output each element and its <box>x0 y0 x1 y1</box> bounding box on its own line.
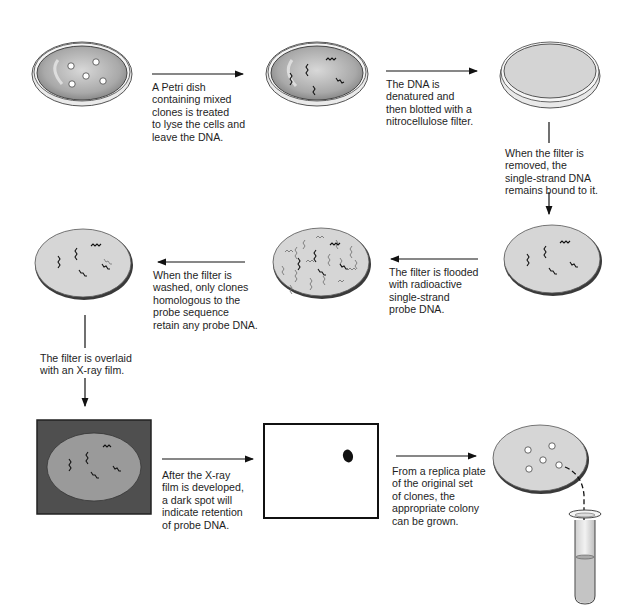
caption-step6: The filter is overlaid with an X-ray fil… <box>40 352 132 377</box>
petri-dish-lysed-dna <box>266 42 368 106</box>
caption-step5: When the filter is washed, only clones h… <box>153 269 258 331</box>
nitrocellulose-filter-on-dish <box>500 42 600 108</box>
colony-selected <box>556 462 562 468</box>
caption-step4: The filter is flooded with radioactive s… <box>389 266 479 316</box>
filter-washed <box>35 229 133 300</box>
colony <box>93 59 99 65</box>
developed-xray-film <box>264 424 378 518</box>
caption-step8: From a replica plate of the original set… <box>392 465 486 527</box>
colony <box>69 81 75 87</box>
colony <box>68 63 74 69</box>
colony <box>540 457 546 463</box>
caption-step3: When the filter is removed, the single-s… <box>505 147 598 197</box>
colony <box>83 73 89 79</box>
colony <box>525 447 531 453</box>
filter-bound-dna <box>504 225 602 296</box>
colony <box>100 78 106 84</box>
colony <box>526 466 532 472</box>
diagram-canvas <box>0 0 637 615</box>
caption-step7: After the X-ray film is developed, a dar… <box>162 469 244 531</box>
replica-plate <box>493 425 589 494</box>
filter-flooded-probe <box>273 228 371 299</box>
petri-dish-colonies <box>32 42 132 106</box>
culture-tube <box>569 510 601 604</box>
caption-step2: The DNA is denatured and then blotted wi… <box>386 78 473 128</box>
caption-step1: A Petri dish containing mixed clones is … <box>152 81 245 143</box>
colony <box>549 443 555 449</box>
xray-film-overlay <box>37 420 151 514</box>
